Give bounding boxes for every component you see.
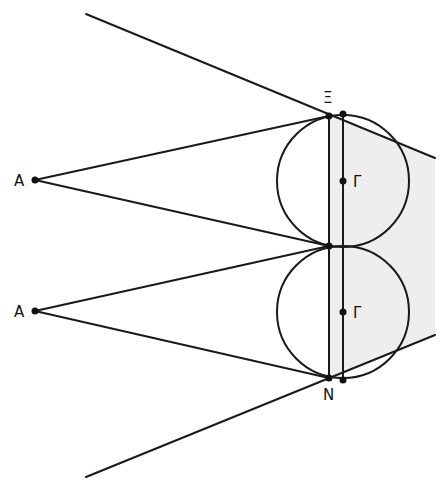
upper-long-line xyxy=(86,14,435,158)
point-a-upper xyxy=(32,177,39,184)
point-top-of-upper-circle xyxy=(340,111,347,118)
label-gamma-upper: Γ xyxy=(353,173,362,191)
point-bottom-of-lower-circle xyxy=(340,377,347,384)
tangent-lower-a-to-middle xyxy=(35,246,329,311)
label-a-lower: A xyxy=(14,303,25,321)
point-n xyxy=(326,375,333,382)
label-gamma-lower: Γ xyxy=(353,304,362,322)
point-a-lower xyxy=(32,308,39,315)
label-xi: Ξ xyxy=(323,89,332,107)
point-gamma-upper xyxy=(340,178,347,185)
lower-long-line xyxy=(86,335,435,477)
label-a-upper: A xyxy=(14,172,25,190)
label-n: N xyxy=(323,386,334,404)
geometry-diagram: Ξ N Γ Γ A A xyxy=(0,0,448,492)
point-gamma-lower xyxy=(340,309,347,316)
point-xi xyxy=(326,113,333,120)
point-tangency-middle xyxy=(326,243,333,250)
